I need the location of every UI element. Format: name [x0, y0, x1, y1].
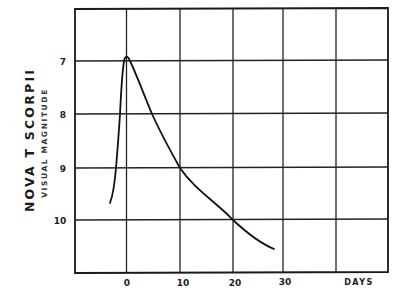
- vertical-gridlines: [127, 9, 337, 273]
- chart: 7 8 9 10 0 10 20 30 DAYS NOVA T SCORPII …: [0, 0, 402, 304]
- x-tick-labels: 0 10 20 30 DAYS: [124, 277, 374, 288]
- y-tick-label: 9: [60, 164, 66, 174]
- x-tick-label: 0: [124, 278, 130, 288]
- x-axis-unit-label: DAYS: [344, 278, 374, 287]
- y-tick-labels: 7 8 9 10: [54, 57, 67, 226]
- x-tick-label: 20: [229, 278, 242, 288]
- gridline-mag-8: [75, 113, 388, 114]
- x-tick-label: 30: [279, 277, 292, 287]
- y-tick-label: 8: [60, 110, 66, 120]
- gridline-mag-7: [75, 60, 388, 61]
- gridline-mag-9: [75, 167, 388, 168]
- chart-title: NOVA T SCORPII: [22, 68, 37, 212]
- y-tick-label: 10: [54, 216, 67, 226]
- x-tick-label: 10: [177, 278, 190, 288]
- plot-frame: [75, 8, 388, 273]
- y-axis-label: VISUAL MAGNITUDE: [40, 88, 49, 198]
- y-tick-label: 7: [60, 57, 66, 67]
